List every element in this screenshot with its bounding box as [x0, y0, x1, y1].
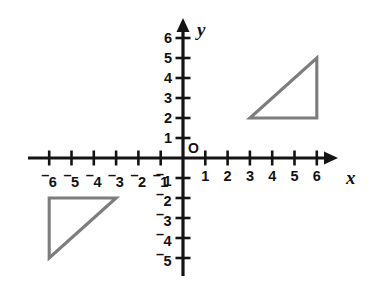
x-tick-label-neg3-digit: 3 [116, 174, 124, 190]
x-tick-label-3-digit: 3 [246, 168, 254, 184]
x-axis-label: x [346, 168, 356, 187]
x-tick-label-neg4-digit: 4 [93, 174, 101, 190]
y-tick-label-5-digit: 5 [164, 50, 172, 66]
minus-sign-icon: – [41, 168, 49, 183]
minus-sign-icon: – [156, 187, 164, 202]
minus-sign-icon: – [64, 168, 72, 183]
y-tick-label-neg2-digit: 2 [164, 193, 172, 209]
coordinate-plane-canvas [0, 0, 373, 284]
x-tick-label-6: 6 [313, 169, 321, 184]
x-tick-label-1-digit: 1 [201, 168, 209, 184]
y-tick-label-3-digit: 3 [164, 90, 172, 106]
minus-sign-icon: – [130, 168, 138, 183]
lower-left-triangle [49, 198, 116, 258]
y-tick-label-neg5: –5 [156, 248, 172, 269]
minus-sign-icon: – [156, 247, 164, 262]
x-tick-label-4: 4 [268, 169, 276, 184]
x-tick-label-1: 1 [201, 169, 209, 184]
x-tick-label-5: 5 [291, 169, 299, 184]
minus-sign-icon: – [156, 167, 164, 182]
x-tick-label-neg3: –3 [108, 169, 124, 190]
x-tick-label-neg6-digit: 6 [49, 174, 57, 190]
x-tick-label-neg2: –2 [130, 169, 146, 190]
y-axis-arrowhead [177, 18, 190, 32]
y-tick-label-neg1-digit: 1 [164, 173, 172, 189]
y-tick-label-neg5-digit: 5 [164, 253, 172, 269]
coordinate-plane-figure: –6–5–4–3–2–1123456654321–1–2–3–4–5 O x y [0, 0, 373, 284]
x-tick-label-neg5-digit: 5 [71, 174, 79, 190]
y-tick-label-6-digit: 6 [164, 30, 172, 46]
y-tick-label-neg3-digit: 3 [164, 213, 172, 229]
minus-sign-icon: – [156, 227, 164, 242]
y-tick-label-1: 1 [164, 131, 172, 146]
x-tick-label-neg5: –5 [64, 169, 80, 190]
y-tick-label-1-digit: 1 [164, 130, 172, 146]
x-tick-label-6-digit: 6 [313, 168, 321, 184]
x-axis-arrowhead [324, 152, 338, 165]
y-tick-label-neg4-digit: 4 [164, 233, 172, 249]
x-tick-label-3: 3 [246, 169, 254, 184]
y-tick-label-4-digit: 4 [164, 70, 172, 86]
minus-sign-icon: – [108, 168, 116, 183]
minus-sign-icon: – [156, 207, 164, 222]
y-tick-label-2-digit: 2 [164, 110, 172, 126]
upper-right-triangle [250, 58, 317, 118]
y-axis-label: y [197, 20, 205, 39]
minus-sign-icon: – [86, 168, 94, 183]
x-tick-label-neg4: –4 [86, 169, 102, 190]
x-tick-label-neg6: –6 [41, 169, 57, 190]
x-tick-label-2: 2 [224, 169, 232, 184]
x-tick-label-5-digit: 5 [291, 168, 299, 184]
y-tick-label-4: 4 [164, 71, 172, 86]
x-tick-label-2-digit: 2 [224, 168, 232, 184]
x-tick-label-4-digit: 4 [268, 168, 276, 184]
y-tick-label-5: 5 [164, 51, 172, 66]
y-tick-label-2: 2 [164, 111, 172, 126]
x-tick-label-neg2-digit: 2 [138, 174, 146, 190]
y-tick-label-6: 6 [164, 31, 172, 46]
origin-label: O [188, 141, 199, 155]
y-tick-label-3: 3 [164, 91, 172, 106]
